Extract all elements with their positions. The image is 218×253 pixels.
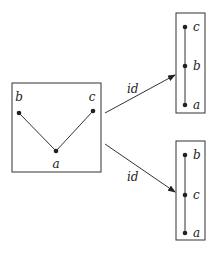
edge-c-a [56,111,93,151]
top-chain-box: c b a [176,13,205,113]
edge-b-a [19,113,56,151]
bottom-node-a [183,231,188,236]
source-poset-box: b c a [12,83,101,172]
node-c [91,109,96,114]
top-node-c [183,25,188,30]
bottom-label-b: b [193,148,201,162]
top-node-a [183,103,188,108]
bottom-label-c: c [193,188,200,202]
arrow-bottom-label: id [127,170,139,184]
arrow-bottom: id [105,144,175,192]
bottom-node-b [183,153,188,158]
node-a [54,149,59,154]
arrow-top: id [105,75,175,113]
node-b [17,111,22,116]
top-label-b: b [193,59,201,73]
arrow-top-label: id [127,82,139,96]
bottom-label-a: a [193,226,200,240]
bottom-node-c [183,193,188,198]
top-node-b [183,64,188,69]
poset-diagram: b c a id id c b a b c a [0,0,218,253]
label-b: b [15,90,23,104]
top-label-c: c [193,20,200,34]
bottom-chain-box: b c a [176,141,205,240]
top-label-a: a [193,98,200,112]
label-c: c [89,90,96,104]
label-a: a [52,157,59,171]
